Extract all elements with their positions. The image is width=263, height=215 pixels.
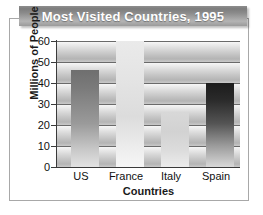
y-tick-labels: 60 50 40 30 20 10 0	[14, 0, 50, 215]
y-tick-mark-50	[51, 62, 57, 63]
gridline-60	[57, 41, 240, 42]
y-tick-label-20: 20	[20, 120, 50, 131]
bar-italy	[161, 112, 189, 167]
chart-figure: Most Visited Countries, 1995 Millions of…	[0, 0, 263, 215]
x-axis-title: Countries	[57, 185, 240, 197]
y-tick-mark-10	[51, 146, 57, 147]
plot-area	[57, 41, 240, 167]
y-tick-mark-0	[51, 167, 57, 168]
y-tick-label-60: 60	[20, 36, 50, 47]
y-tick-label-40: 40	[20, 78, 50, 89]
bar-france	[116, 41, 144, 167]
y-tick-mark-30	[51, 104, 57, 105]
y-tick-label-50: 50	[20, 57, 50, 68]
x-axis-line	[56, 167, 240, 168]
gridline-50	[57, 62, 240, 63]
chart-title: Most Visited Countries, 1995	[42, 9, 224, 24]
chart-title-banner: Most Visited Countries, 1995	[19, 6, 247, 26]
y-tick-label-30: 30	[20, 99, 50, 110]
y-tick-mark-20	[51, 125, 57, 126]
bar-spain	[206, 83, 234, 167]
bar-us	[71, 70, 99, 167]
y-tick-mark-60	[51, 41, 57, 42]
y-tick-mark-40	[51, 83, 57, 84]
y-tick-label-0: 0	[20, 162, 50, 173]
y-tick-label-10: 10	[20, 141, 50, 152]
x-tick-label-spain: Spain	[186, 170, 246, 182]
